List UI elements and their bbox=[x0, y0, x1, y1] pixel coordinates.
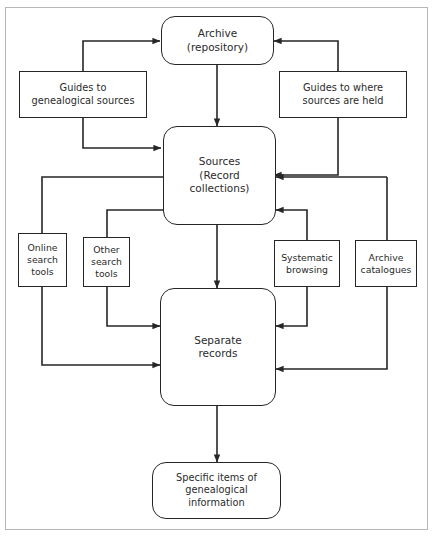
node-archive-catalogues-line-1: Archive bbox=[369, 252, 404, 264]
node-separate-records[interactable]: Separate records bbox=[160, 288, 276, 406]
node-sources-line-1: Sources bbox=[199, 155, 241, 168]
node-systematic-browsing-line-1: Systematic bbox=[281, 252, 333, 264]
node-other-search-line-1: Other bbox=[93, 244, 119, 256]
node-sources-line-2: (Record bbox=[199, 169, 239, 182]
node-archive-catalogues[interactable]: Archive catalogues bbox=[355, 240, 417, 287]
node-archive[interactable]: Archive (repository) bbox=[161, 16, 274, 65]
node-guides-held-line-1: Guides to where bbox=[303, 82, 383, 95]
node-sources-record-collections[interactable]: Sources (Record collections) bbox=[163, 126, 276, 225]
node-specific-items-line-2: genealogical bbox=[185, 484, 247, 497]
node-other-search-line-3: tools bbox=[95, 268, 117, 280]
node-online-search-line-1: Online bbox=[28, 242, 58, 254]
node-guides-sources-line-1: Guides to bbox=[60, 82, 107, 95]
diagram-canvas: Archive (repository) Guides to genealogi… bbox=[0, 0, 435, 538]
node-online-search-line-3: tools bbox=[31, 266, 53, 278]
node-specific-items-line-3: information bbox=[188, 497, 245, 510]
node-guides-to-where-sources-are-held[interactable]: Guides to where sources are held bbox=[279, 71, 407, 118]
node-guides-held-line-2: sources are held bbox=[303, 95, 384, 108]
node-systematic-browsing-line-2: browsing bbox=[286, 264, 328, 276]
node-separate-records-line-2: records bbox=[198, 347, 237, 360]
node-online-search-tools[interactable]: Online search tools bbox=[18, 233, 67, 287]
node-specific-items[interactable]: Specific items of genealogical informati… bbox=[152, 462, 281, 519]
node-systematic-browsing[interactable]: Systematic browsing bbox=[274, 240, 340, 287]
node-sources-line-3: collections) bbox=[190, 182, 250, 195]
node-specific-items-line-1: Specific items of bbox=[176, 472, 257, 485]
node-guides-to-genealogical-sources[interactable]: Guides to genealogical sources bbox=[19, 71, 147, 118]
node-other-search-line-2: search bbox=[91, 256, 122, 268]
node-guides-sources-line-2: genealogical sources bbox=[31, 95, 134, 108]
node-online-search-line-2: search bbox=[27, 254, 58, 266]
node-archive-line-2: (repository) bbox=[187, 41, 248, 54]
node-other-search-tools[interactable]: Other search tools bbox=[83, 237, 130, 287]
node-archive-catalogues-line-2: catalogues bbox=[361, 264, 412, 276]
node-archive-line-1: Archive bbox=[198, 27, 237, 40]
node-separate-records-line-1: Separate bbox=[194, 334, 242, 347]
